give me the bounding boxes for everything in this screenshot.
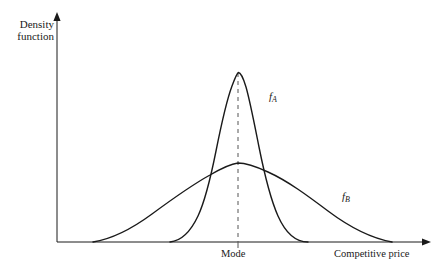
y-axis-label-line2: function xyxy=(0,30,54,42)
x-axis xyxy=(57,238,431,245)
density-function-chart: Density function Competitive price Mode … xyxy=(0,0,438,270)
curve-label-fb: fB xyxy=(342,190,350,205)
x-axis-tick-label-mode: Mode xyxy=(221,248,246,260)
curve-fa xyxy=(170,73,308,243)
y-axis-label: Density function xyxy=(0,18,54,43)
x-axis-label: Competitive price xyxy=(334,248,410,260)
y-axis xyxy=(53,12,60,242)
chart-canvas xyxy=(0,0,438,270)
curve-label-fa: fA xyxy=(269,90,277,105)
curve-label-fb-subscript: B xyxy=(345,195,350,204)
y-axis-label-line1: Density xyxy=(0,18,54,30)
curve-label-fa-subscript: A xyxy=(272,95,277,104)
